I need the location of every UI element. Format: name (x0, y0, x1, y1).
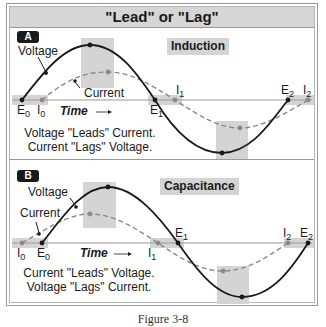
time-axis-label: Time (80, 246, 108, 260)
point-i2: I2 (303, 83, 311, 99)
current-label: Current (84, 86, 124, 100)
point-e1: E1 (175, 226, 188, 242)
point-e0: E0 (37, 246, 50, 262)
point-e2: E2 (281, 83, 294, 99)
capacitance-statement: Current "Leads" Voltage. Voltage "Lags" … (14, 266, 164, 294)
figure-caption: Figure 3-8 (0, 312, 326, 327)
point-i1: I1 (176, 83, 184, 99)
point-i1: I1 (148, 246, 156, 262)
panel-badge-a: A (17, 31, 39, 43)
point-e0: E0 (17, 103, 30, 119)
induction-statement: Voltage "Leads" Current. Current "Lags" … (15, 126, 165, 154)
panel-title-capacitance: Capacitance (160, 178, 239, 195)
time-axis-label: Time (60, 104, 88, 118)
panel-badge-b: B (17, 170, 39, 182)
point-e2: E2 (300, 226, 313, 242)
panel-title-induction: Induction (167, 38, 229, 55)
point-i0: I0 (17, 246, 25, 262)
point-i0: I0 (37, 103, 45, 119)
point-i2: I2 (283, 226, 291, 242)
voltage-label: Voltage (28, 185, 68, 199)
point-e1: E1 (150, 103, 163, 119)
voltage-label: Voltage (18, 44, 58, 58)
current-label: Current (20, 206, 60, 220)
